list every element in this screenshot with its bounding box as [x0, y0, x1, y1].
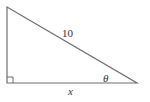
- triangle-outline: [7, 7, 137, 83]
- right-angle-marker: [7, 77, 13, 83]
- angle-label: θ: [103, 73, 108, 84]
- right-triangle: [0, 0, 150, 102]
- base-label: x: [68, 86, 73, 97]
- hypotenuse-label: 10: [62, 28, 73, 39]
